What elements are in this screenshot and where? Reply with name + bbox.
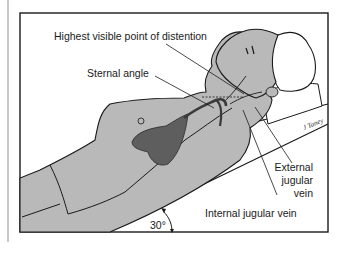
label-external-jugular-line2: jugular (280, 174, 313, 186)
jvd-illustration: Highest visible point of distention Ster… (0, 0, 342, 255)
label-external-jugular-line3: vein (294, 187, 313, 199)
label-internal-jugular: Internal jugular vein (205, 207, 297, 219)
label-highest-point: Highest visible point of distention (54, 30, 207, 42)
label-external-jugular-line1: External (274, 161, 313, 173)
ear (266, 87, 278, 97)
label-angle: 30° (150, 219, 166, 231)
label-sternal-angle: Sternal angle (87, 67, 149, 79)
